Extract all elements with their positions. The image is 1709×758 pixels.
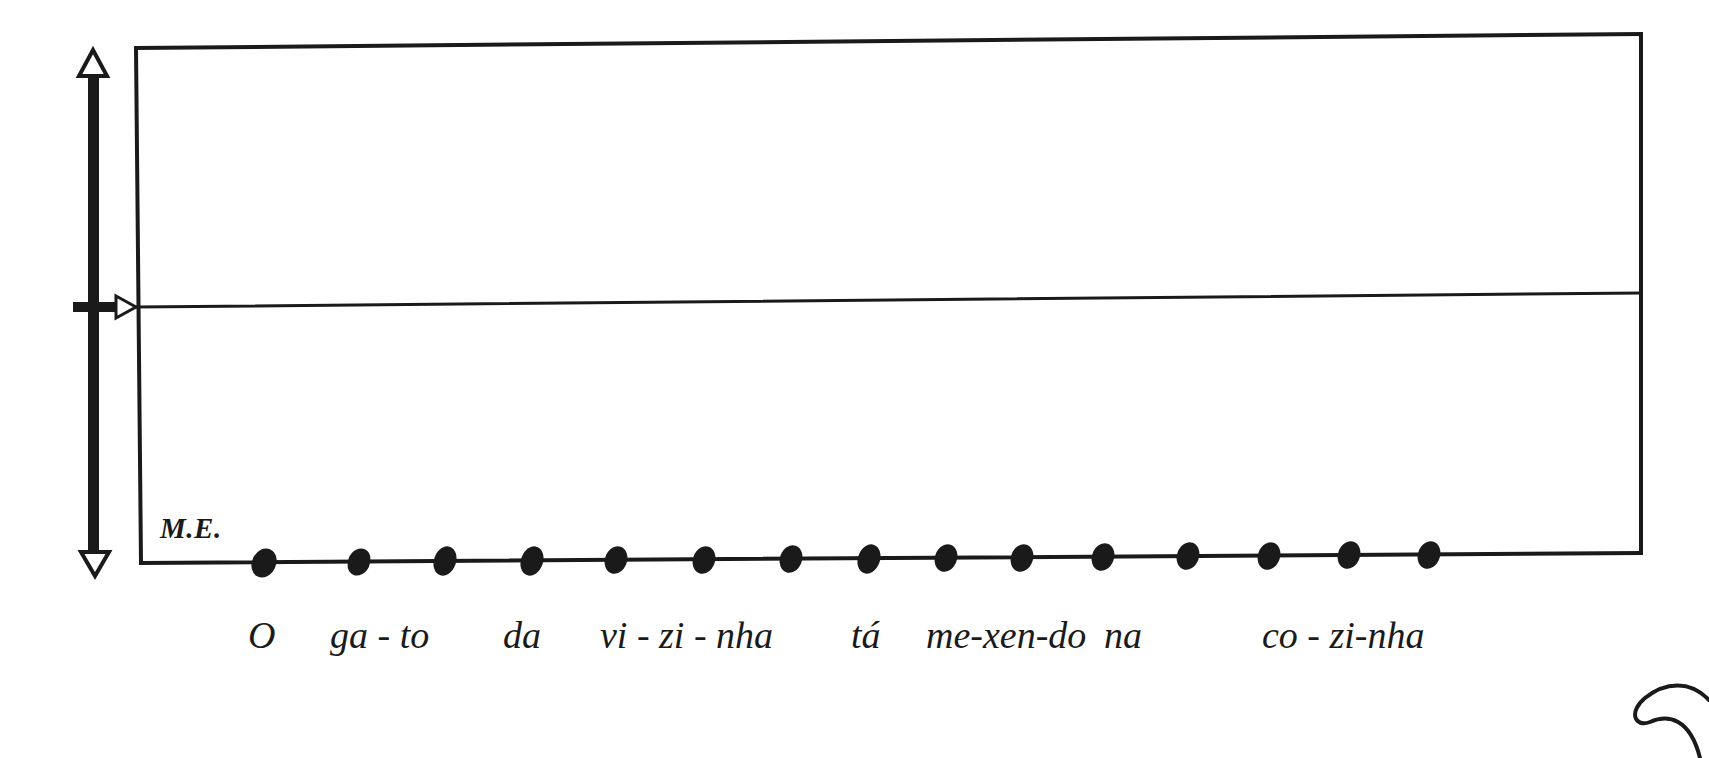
- syllable-dot: [1334, 538, 1364, 572]
- syllable-dot: [1173, 539, 1203, 573]
- mid-marker-bar: [73, 302, 117, 312]
- syllable-dot: [343, 545, 375, 580]
- down-arrow-icon: [81, 552, 109, 576]
- syllable-dot: [931, 541, 961, 575]
- word-cozinha: co - zi-nha: [1262, 616, 1425, 654]
- word-gato: ga - to: [330, 616, 429, 654]
- syllable-dot: [1088, 540, 1118, 574]
- syllable-dot: [1414, 538, 1444, 572]
- syllable-dot: [601, 543, 631, 577]
- syllable-dot: [776, 542, 806, 576]
- syllable-dot: [854, 541, 885, 577]
- contour-frame: [136, 34, 1641, 563]
- syllable-dot: [1007, 541, 1037, 575]
- right-arrow-icon: [116, 296, 136, 318]
- up-arrow-icon: [79, 50, 107, 76]
- syllable-dot: [247, 544, 281, 581]
- word-da: da: [503, 616, 541, 654]
- word-na: na: [1104, 616, 1142, 654]
- pitch-axis: [73, 50, 136, 576]
- word-mexendo: me-xen-do: [926, 616, 1086, 654]
- pitch-axis-bar: [88, 74, 99, 554]
- word-o: O: [248, 616, 275, 654]
- register-label: M.E.: [160, 512, 222, 545]
- syllable-dot: [430, 543, 461, 579]
- syllable-dot: [517, 543, 548, 579]
- syllable-dot: [689, 543, 719, 577]
- word-vizinha: vi - zi - nha: [600, 616, 773, 654]
- decorative-curl: [1635, 686, 1709, 758]
- frame-top: [136, 34, 1641, 48]
- syllable-dot: [1254, 539, 1284, 573]
- frame-midline: [136, 293, 1641, 307]
- word-ta: tá: [851, 616, 881, 654]
